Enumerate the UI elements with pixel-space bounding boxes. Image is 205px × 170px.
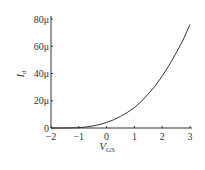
y-tick-label: 80μ: [34, 14, 49, 25]
x-tick-label: 2: [160, 131, 165, 142]
x-tick-label: −1: [73, 131, 84, 142]
y-tick-label: 60μ: [34, 41, 49, 52]
chart: −2−10123 020μ40μ60μ80μ VGS Id: [0, 0, 205, 170]
y-tick-label: 0: [44, 123, 49, 134]
x-tick-label: 1: [132, 131, 137, 142]
y-tick-label: 20μ: [34, 95, 49, 106]
x-tick-label: 3: [188, 131, 193, 142]
y-ticks: 020μ40μ60μ80μ: [34, 14, 53, 134]
y-axis-label: Id: [14, 70, 28, 79]
id-curve: [51, 25, 190, 129]
x-axis-label: VGS: [99, 140, 115, 154]
y-tick-label: 40μ: [34, 68, 49, 79]
